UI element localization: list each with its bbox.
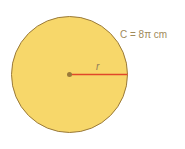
- center-dot: [67, 72, 72, 77]
- circumference-label: C = 8π cm: [120, 29, 167, 40]
- circle-diagram: r C = 8π cm: [0, 0, 185, 149]
